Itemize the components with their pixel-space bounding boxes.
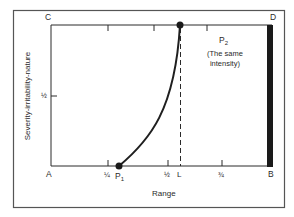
point-p2-label: P2 [219,36,228,45]
corner-label-d: D [270,13,276,22]
annotation-line-2: intensity) [207,59,243,69]
corner-label-a: A [46,170,52,179]
annotation-line-1: (The same [207,49,243,59]
point-p1 [116,163,123,170]
point-p2-letter: P [219,35,225,45]
severity-curve [119,25,180,166]
range-end-bar [267,25,273,167]
y-axis-title: Severity-irritability-nature [23,52,32,140]
corner-label-b: B [268,170,274,179]
point-p1-label: P1 [115,172,124,181]
point-p1-subscript: 1 [121,176,124,182]
x-tick-label-half: ½ [164,171,170,178]
range-severity-diagram [0,0,294,217]
x-tick-label-three-quarter: ¾ [218,171,224,178]
corner-label-c: C [45,13,51,22]
point-p2-subscript: 2 [225,40,228,46]
y-tick-label-half: ½ [41,92,47,99]
x-tick-label-quarter: ¼ [104,171,110,178]
point-p2 [177,22,184,29]
limit-label-l: L [177,171,181,179]
outer-frame [14,11,285,208]
point-p1-letter: P [115,171,121,181]
x-axis-title: Range [152,190,176,198]
point-p2-annotation: (The same intensity) [207,49,243,69]
